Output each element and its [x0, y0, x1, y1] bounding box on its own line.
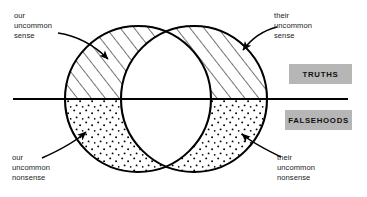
annotation-their-uncommon-sense: their uncommon sense: [274, 11, 312, 42]
annotation-line: sense: [14, 31, 52, 41]
legend-truths-label: TRUTHS: [303, 70, 339, 79]
legend-truths: TRUTHS: [289, 64, 352, 84]
annotation-line: nonsense: [277, 173, 315, 183]
annotation-line: sense: [274, 31, 312, 41]
legend-falsehoods: FALSEHOODS: [285, 110, 352, 130]
annotation-line: our: [12, 153, 50, 163]
annotation-line: their: [274, 11, 312, 21]
annotation-line: uncommon: [274, 21, 312, 31]
annotation-line: uncommon: [277, 163, 315, 173]
annotation-our-uncommon-nonsense: our uncommon nonsense: [12, 153, 50, 184]
annotation-line: uncommon: [14, 21, 52, 31]
annotation-line: nonsense: [12, 173, 50, 183]
diagram-canvas: our uncommon sense their uncommon sense …: [0, 0, 367, 197]
annotation-our-uncommon-sense: our uncommon sense: [14, 11, 52, 42]
annotation-line: their: [277, 153, 315, 163]
annotation-line: our: [14, 11, 52, 21]
legend-falsehoods-label: FALSEHOODS: [288, 116, 349, 125]
annotation-line: uncommon: [12, 163, 50, 173]
annotation-their-uncommon-nonsense: their uncommon nonsense: [277, 153, 315, 184]
